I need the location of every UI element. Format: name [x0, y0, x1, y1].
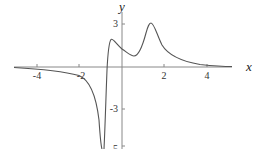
function-plot: -4 -2 2 4 3 -3 -5 x y — [0, 0, 268, 149]
x-tick-label: 4 — [205, 70, 210, 81]
function-curve — [14, 23, 232, 149]
y-tick-label: -3 — [110, 103, 118, 114]
x-tick-label: 2 — [162, 70, 167, 81]
y-axis-label: y — [117, 0, 125, 14]
y-tick-label: 3 — [113, 18, 118, 29]
x-tick-label: -4 — [33, 70, 41, 81]
x-axis-label: x — [245, 59, 252, 74]
y-tick-label: -5 — [110, 143, 118, 149]
